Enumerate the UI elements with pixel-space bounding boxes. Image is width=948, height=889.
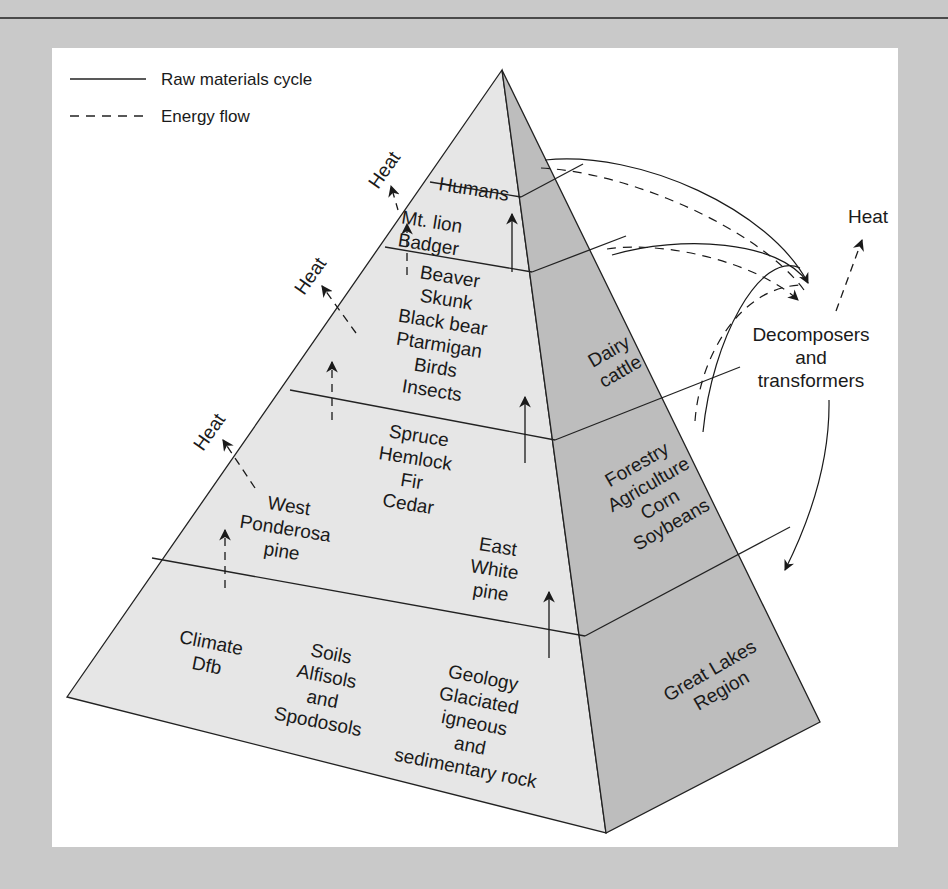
legend: Raw materials cycle Energy flow	[70, 70, 312, 126]
return-flow-arrow-icon	[785, 400, 829, 570]
svg-text:transformers: transformers	[758, 370, 865, 391]
heat-label-right: Heat	[848, 206, 889, 227]
svg-text:Fir: Fir	[399, 469, 425, 493]
legend-raw-materials-label: Raw materials cycle	[161, 70, 312, 89]
raw-materials-flow-line	[703, 266, 800, 432]
ecosystem-pyramid-diagram: Raw materials cycle Energy flow Humans M…	[0, 0, 948, 889]
heat-arrow-icon	[391, 186, 398, 210]
svg-text:Decomposers: Decomposers	[752, 324, 869, 345]
heat-label-top: Heat	[364, 147, 405, 193]
legend-energy-flow-label: Energy flow	[161, 107, 251, 126]
svg-text:and: and	[795, 347, 827, 368]
energy-flow-line	[695, 285, 800, 421]
heat-label-low: Heat	[189, 409, 230, 455]
decomposers-label: Decomposers and transformers	[752, 324, 869, 391]
heat-arrow-icon	[836, 240, 862, 311]
heat-label-mid: Heat	[290, 253, 331, 299]
